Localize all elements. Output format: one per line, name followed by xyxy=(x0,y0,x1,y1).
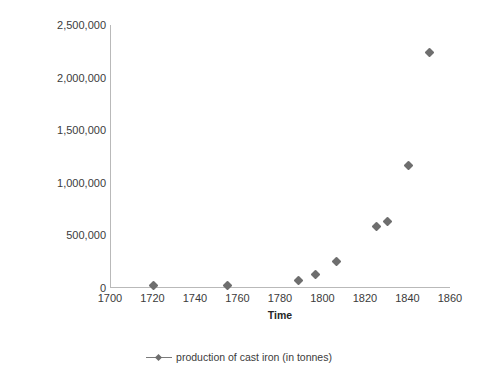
data-point xyxy=(372,222,382,232)
data-point xyxy=(293,276,303,286)
diamond-marker-icon xyxy=(146,352,172,362)
x-tick-label: 1860 xyxy=(425,291,475,305)
y-tick-label: 1,500,000 xyxy=(34,124,106,136)
x-axis-title: Time xyxy=(110,309,450,321)
y-axis-tick-labels: 0500,0001,000,0001,500,0002,000,0002,500… xyxy=(30,0,106,384)
legend-label-production-of-cast-iron: production of cast iron (in tonnes) xyxy=(176,351,332,363)
data-point xyxy=(425,47,435,57)
data-point xyxy=(223,280,233,290)
chart-legend: production of cast iron (in tonnes) xyxy=(0,351,478,363)
x-axis-tick-labels: 170017201740176017801800182018401860 xyxy=(110,291,450,307)
data-point xyxy=(404,161,414,171)
data-point xyxy=(149,280,159,290)
y-tick-label: 2,000,000 xyxy=(34,72,106,84)
plot-area xyxy=(110,25,450,288)
y-tick-label: 500,000 xyxy=(34,229,106,241)
cast-iron-production-chart: Production of cast iron (in tonnes) 0500… xyxy=(0,0,478,384)
data-point xyxy=(331,257,341,267)
y-tick-label: 1,000,000 xyxy=(34,177,106,189)
y-axis-title: Production of cast iron (in tonnes) xyxy=(9,0,27,48)
data-point xyxy=(310,270,320,280)
data-point xyxy=(382,217,392,227)
y-tick-label: 2,500,000 xyxy=(34,19,106,31)
